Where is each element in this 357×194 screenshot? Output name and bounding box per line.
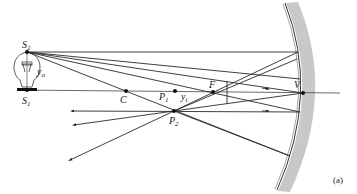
- figure-caption: (a): [333, 175, 343, 185]
- point-c: [124, 89, 128, 93]
- concave-mirror-diagram: S2 S1 yo C P1 yi P2 F V (a): [0, 0, 357, 194]
- concave-mirror: [275, 2, 315, 192]
- ray-vertex-incident: [27, 52, 303, 93]
- label-s1: S1: [22, 95, 31, 108]
- label-p2: P2: [168, 115, 179, 128]
- label-yi: yi: [180, 91, 187, 104]
- point-s1: [25, 88, 29, 92]
- point-v: [301, 91, 305, 95]
- label-s2: S2: [22, 39, 31, 52]
- point-p2: [172, 109, 176, 113]
- ray-bundle: [27, 52, 303, 160]
- ray-through-f-upper: [174, 59, 297, 111]
- mirror-backing: [278, 2, 315, 192]
- point-p1: [173, 89, 177, 93]
- arrow-mark-upper: [262, 88, 268, 89]
- point-f: [211, 90, 215, 94]
- label-p1: P1: [158, 91, 169, 104]
- ray-focal-incident-b: [27, 52, 300, 112]
- label-c: C: [120, 94, 127, 105]
- ray-center-reflected: [174, 111, 290, 156]
- label-f: F: [208, 79, 216, 90]
